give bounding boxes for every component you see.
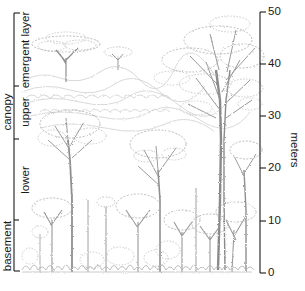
upper-layer-label: upper [20, 97, 32, 126]
emergent-layer-label: emergent layer [20, 12, 32, 89]
rainforest-stratification-diagram: emergent layer upper lower canopy baseme… [0, 0, 305, 291]
axis-label-40: 40 [268, 58, 281, 70]
emergent-tree-giant [154, 16, 264, 270]
canopy-group-label: canopy [2, 93, 14, 130]
lower-layer-label: lower [20, 166, 32, 193]
emergent-tree-small [104, 47, 132, 70]
height-axis [260, 12, 266, 273]
mid-canopy-tree-right [216, 141, 262, 272]
lower-layer-trees [32, 188, 228, 272]
forest-illustration [0, 0, 305, 291]
basement-layer-label: basement [2, 221, 14, 272]
axis-label-20: 20 [268, 162, 281, 174]
upper-canopy-tree [38, 110, 106, 272]
axis-label-50: 50 [268, 6, 281, 18]
axis-label-0: 0 [268, 267, 274, 279]
axis-title-meters: meters [288, 132, 300, 167]
axis-label-10: 10 [268, 215, 281, 227]
axis-label-30: 30 [268, 110, 281, 122]
